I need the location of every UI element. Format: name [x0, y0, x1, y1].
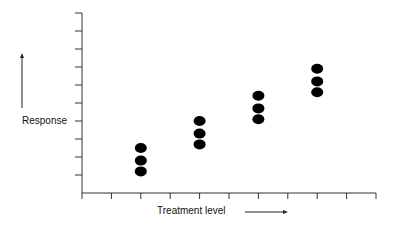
treatment-arrowhead-icon — [283, 210, 288, 214]
data-point — [194, 139, 206, 149]
response-arrowhead-icon — [20, 53, 24, 58]
x-axis-label: Treatment level — [157, 206, 226, 216]
data-point — [135, 166, 147, 176]
data-point — [252, 103, 264, 113]
axis-arrows — [20, 53, 288, 214]
data-point — [135, 143, 147, 153]
axes — [75, 13, 376, 199]
data-point — [252, 91, 264, 101]
data-point — [135, 156, 147, 166]
data-point — [311, 87, 323, 97]
data-point — [252, 114, 264, 124]
data-point — [194, 116, 206, 126]
data-point — [311, 64, 323, 74]
data-point — [194, 129, 206, 139]
y-axis-label: Response — [22, 116, 67, 126]
data-points — [135, 64, 323, 177]
data-point — [311, 76, 323, 86]
